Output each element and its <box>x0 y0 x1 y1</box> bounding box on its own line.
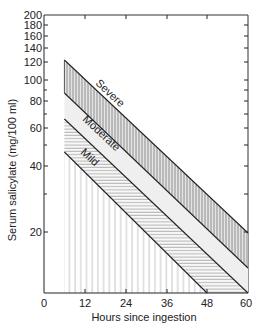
svg-text:40: 40 <box>30 160 42 172</box>
y-tick-labels: 20 40 60 80 100 120 140 160 180 200 <box>24 9 42 238</box>
top-axis-ticks <box>85 15 207 19</box>
svg-text:120: 120 <box>24 56 42 68</box>
svg-text:100: 100 <box>24 74 42 86</box>
svg-text:80: 80 <box>30 95 42 107</box>
y-axis-title: Serum salicylate (mg/100 ml) <box>6 99 18 241</box>
x-tick-labels: 0 12 24 36 48 60 <box>41 297 252 309</box>
right-axis-ticks <box>244 25 248 232</box>
svg-text:48: 48 <box>201 297 213 309</box>
salicylate-nomogram-chart: Severe Moderate Mild <box>0 0 258 326</box>
x-axis-title: Hours since ingestion <box>91 311 196 323</box>
y-axis <box>44 15 48 293</box>
svg-text:160: 160 <box>24 30 42 42</box>
svg-text:24: 24 <box>120 297 132 309</box>
svg-text:20: 20 <box>30 226 42 238</box>
svg-text:12: 12 <box>79 297 91 309</box>
svg-text:200: 200 <box>24 9 42 21</box>
svg-text:140: 140 <box>24 42 42 54</box>
svg-text:60: 60 <box>240 297 252 309</box>
svg-text:36: 36 <box>161 297 173 309</box>
svg-text:60: 60 <box>30 122 42 134</box>
svg-text:0: 0 <box>41 297 47 309</box>
